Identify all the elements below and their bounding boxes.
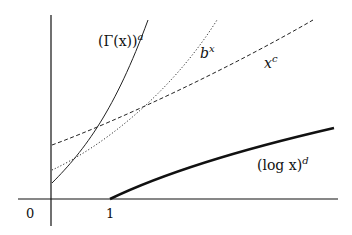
label-log: (log x)d <box>257 155 309 173</box>
x-tick-0: 0 <box>26 206 34 221</box>
svg-text:(log x)d: (log x)d <box>257 155 309 173</box>
label-power: xc <box>264 53 278 71</box>
x-tick-1: 1 <box>106 206 114 221</box>
label-gamma: (Γ(x))a <box>98 31 143 49</box>
curve-power <box>52 20 313 145</box>
svg-text:bx: bx <box>200 43 215 61</box>
svg-text:xc: xc <box>264 53 278 71</box>
growth-diagram: 0 1 (Γ(x))a bx xc (log x)d <box>0 0 352 235</box>
svg-text:(Γ(x))a: (Γ(x))a <box>98 31 143 49</box>
label-exponential: bx <box>200 43 215 61</box>
